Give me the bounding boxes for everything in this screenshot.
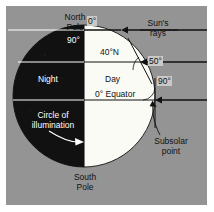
equator-label: 0° Equator xyxy=(95,89,135,99)
earth-diagram xyxy=(0,0,214,212)
subsolar-point-line2: point xyxy=(147,146,195,156)
suns-rays-label: Sun's rays xyxy=(141,18,175,38)
ninety-degree-left-label: 90° xyxy=(67,35,80,45)
south-pole-label-line2: Pole xyxy=(64,182,106,192)
diagram-page: North Pole 0° 90° 40°N Day Night 0° Equa… xyxy=(0,0,214,212)
subsolar-point-line1: Subsolar xyxy=(147,136,195,146)
circle-of-illumination-label: Circle of illumination xyxy=(24,110,82,130)
day-label: Day xyxy=(105,74,120,84)
south-pole-label-line1: South xyxy=(64,172,106,182)
south-pole-label: South Pole xyxy=(64,172,106,192)
circle-of-illumination-line2: illumination xyxy=(24,120,82,130)
circle-of-illumination-line1: Circle of xyxy=(24,110,82,120)
night-label: Night xyxy=(38,74,58,84)
subsolar-point-label: Subsolar point xyxy=(147,136,195,156)
angle-ninety-label: 90° xyxy=(157,76,172,86)
suns-rays-line1: Sun's xyxy=(141,18,175,28)
angle-fifty-label: 50° xyxy=(148,56,163,66)
forty-north-label: 40°N xyxy=(100,47,119,57)
zero-degree-top-label: 0° xyxy=(87,16,97,26)
ray-arrow-bottom-head xyxy=(155,97,162,104)
suns-rays-line2: rays xyxy=(141,28,175,38)
ray-arrow-top-head xyxy=(121,27,128,34)
